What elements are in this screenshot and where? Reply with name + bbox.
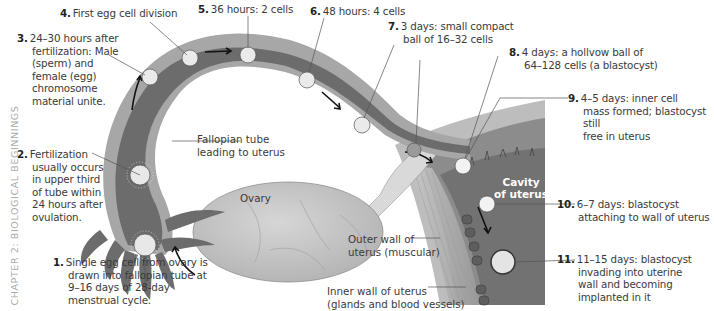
- step-number: 8.: [509, 46, 520, 58]
- step-number: 6.: [310, 5, 321, 17]
- label-line: Inner wall of uterus: [327, 285, 465, 298]
- step-line: attaching to wall of uterus: [578, 211, 710, 223]
- step-line: 9–16 days of 28-day: [68, 281, 170, 293]
- step-line: mass formed; blastocyst still: [583, 105, 706, 130]
- step-number: 7.: [388, 20, 399, 32]
- step-number: 3.: [17, 32, 28, 44]
- step-line: implanted in it: [578, 291, 651, 303]
- step-4-label: 4.First egg cell division: [60, 7, 177, 20]
- step-line: fertilization: Male: [32, 45, 119, 57]
- step-line: invading into uterine: [578, 266, 682, 278]
- step-text: 48 hours: 4 cells: [323, 5, 405, 17]
- step-line: material unite.: [32, 95, 106, 107]
- step-number: 4.: [60, 7, 71, 19]
- step-9-label: 9.4–5 days: inner cell mass formed; blas…: [568, 92, 711, 142]
- step-8-label: 8.4 days: a hollvow ball of 64–128 cells…: [509, 46, 694, 71]
- cavity-of-uterus-label: Cavity of uterus: [494, 176, 548, 200]
- step-number: 2.: [17, 148, 28, 160]
- blastocyst-icon: [455, 158, 471, 174]
- fallopian-tube-label: Fallopian tube leading to uterus: [197, 133, 285, 158]
- step-number: 9.: [568, 92, 579, 104]
- label-line: Cavity: [494, 176, 548, 188]
- step-line: in upper third: [32, 173, 100, 185]
- ovary-shape: [193, 140, 440, 282]
- step-line: menstrual cycle.: [68, 294, 151, 306]
- step-line: free in uterus: [583, 130, 650, 142]
- four-cell-icon: [299, 72, 315, 88]
- attaching-blastocyst-icon: [479, 196, 495, 212]
- compact-ball-icon: [407, 143, 421, 157]
- step-line: 4–5 days: inner cell: [581, 92, 678, 104]
- outer-wall-label: Outer wall of uterus (muscular): [348, 233, 440, 258]
- step-2-label: 2.Fertilization usually occurs in upper …: [17, 148, 132, 224]
- step-line: usually occurs: [32, 161, 103, 173]
- step-line: Single egg cell from ovary is: [66, 256, 208, 268]
- label-line: Outer wall of: [348, 233, 440, 246]
- step-7-label: 7.3 days: small compact ball of 16–32 ce…: [388, 20, 543, 45]
- step-line: ball of 16–32 cells: [403, 33, 493, 45]
- step-line: female (egg): [32, 70, 96, 82]
- ovary-label: Ovary: [240, 192, 271, 205]
- step-11-label: 11.11–15 days: blastocyst invading into …: [557, 253, 714, 303]
- morula-icon: [354, 117, 370, 133]
- step-line: 3 days: small compact: [401, 20, 514, 32]
- step-text: First egg cell division: [73, 7, 178, 19]
- step-number: 1.: [53, 256, 64, 268]
- label-line: uterus (muscular): [348, 246, 440, 259]
- step-number: 10.: [557, 198, 575, 210]
- step-line: 64–128 cells (a blastocyst): [524, 59, 658, 71]
- step-number: 11.: [557, 253, 575, 265]
- implanting-blastocyst-icon: [491, 250, 515, 274]
- step-10-label: 10.6–7 days: blastocyst attaching to wal…: [557, 198, 714, 223]
- step-line: 24–30 hours after: [30, 32, 119, 44]
- step-line: 24 hours after: [32, 198, 103, 210]
- egg-cell-icon: [134, 234, 156, 256]
- inner-wall-label: Inner wall of uterus (glands and blood v…: [327, 285, 465, 310]
- step-5-label: 5.36 hours: 2 cells: [198, 3, 293, 16]
- step-line: Fertilization: [30, 148, 88, 160]
- step-line: 6–7 days: blastocyst: [577, 198, 679, 210]
- step-line: wall and becoming: [578, 278, 673, 290]
- step-line: drawn into fallopian tube at: [68, 269, 207, 281]
- step-6-label: 6.48 hours: 4 cells: [310, 5, 405, 18]
- label-line: (glands and blood vessels): [327, 298, 465, 311]
- two-cell-icon: [240, 47, 256, 63]
- step-line: ovulation.: [32, 211, 82, 223]
- step-line: 4 days: a hollvow ball of: [522, 46, 643, 58]
- label-line: leading to uterus: [197, 146, 285, 159]
- step-line: (sperm) and: [32, 57, 93, 69]
- step-1-label: 1.Single egg cell from ovary is drawn in…: [53, 256, 228, 306]
- step-text: 36 hours: 2 cells: [211, 3, 293, 15]
- step-line: 11–15 days: blastocyst: [577, 253, 692, 265]
- step-line: chromosome: [32, 82, 97, 94]
- step-number: 5.: [198, 3, 209, 15]
- step-line: of tube within: [32, 186, 101, 198]
- step-3-label: 3.24–30 hours after fertilization: Male …: [17, 32, 152, 108]
- label-line: Fallopian tube: [197, 133, 285, 146]
- label-line: of uterus: [494, 188, 548, 200]
